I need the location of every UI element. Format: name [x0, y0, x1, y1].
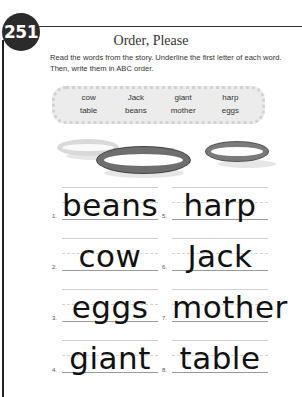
answer-number: 4. [52, 367, 57, 373]
answer-word: harp [172, 190, 268, 221]
word-bank-item: beans [112, 106, 159, 115]
answer-line-5: harp [172, 187, 268, 227]
word-bank-item: eggs [207, 106, 254, 115]
word-bank-box: cow Jack giant harp table beans mother e… [52, 86, 265, 124]
answer-number: 6. [162, 264, 167, 270]
answer-line-3: eggs [62, 289, 158, 329]
header-rule [38, 26, 302, 27]
answer-number: 3. [52, 315, 57, 321]
answer-line-7: mother [172, 289, 268, 329]
answer-number: 1. [52, 213, 57, 219]
answer-word: cow [62, 241, 158, 272]
word-bank-item: table [65, 106, 112, 115]
answer-word: beans [62, 190, 158, 221]
answer-word: mother [172, 292, 268, 323]
answer-word: eggs [62, 292, 158, 323]
left-border-rule [2, 40, 4, 397]
answer-line-6: Jack [172, 238, 268, 278]
answer-number: 7. [162, 315, 167, 321]
plate-dark-large-icon [97, 147, 190, 173]
word-bank-grid: cow Jack giant harp table beans mother e… [65, 93, 254, 115]
word-bank-item: Jack [112, 93, 159, 102]
answer-line-8: table [172, 340, 268, 380]
answer-number: 5. [162, 213, 167, 219]
word-bank-item: harp [207, 93, 254, 102]
word-bank-item: mother [160, 106, 207, 115]
plate-dark-small-icon [206, 142, 268, 161]
answer-number: 8. [162, 367, 167, 373]
plate-shadow [218, 160, 276, 168]
answer-line-2: cow [62, 238, 158, 278]
word-bank-item: giant [160, 93, 207, 102]
answer-word: giant [62, 343, 158, 374]
answer-number: 2. [52, 264, 57, 270]
page-title: Order, Please [0, 33, 302, 49]
answer-word: Jack [172, 241, 268, 272]
answer-line-1: beans [62, 187, 158, 227]
answer-line-4: giant [62, 340, 158, 380]
answer-word: table [172, 343, 268, 374]
word-bank-item: cow [65, 93, 112, 102]
instructions-text: Read the words from the story. Underline… [50, 52, 285, 74]
